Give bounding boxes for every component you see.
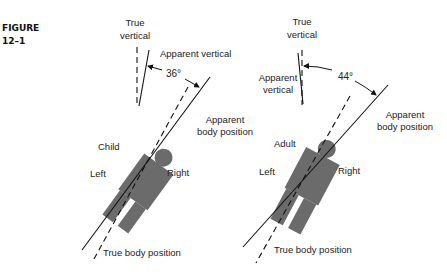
apparent-vertical-label-line1: Apparent [259,72,298,83]
panel-child: True vertical Apparent vertical 36° Appa… [82,17,253,259]
true-body-position-label: True body position [274,244,352,255]
apparent-vertical-line [139,50,149,106]
angle-arrow-left [148,66,162,70]
true-body-position-label: True body position [103,247,181,258]
apparent-body-position-label-line1: Apparent [206,114,245,125]
true-vertical-label-line1: True [292,16,311,27]
angle-label: 36° [166,68,181,79]
angle-arc-left [304,66,332,70]
panel-adult: True vertical Apparent vertical 44° Appa… [243,16,433,263]
left-label: Left [90,168,106,179]
subject-label: Adult [274,138,296,149]
angle-arc-right [355,81,376,95]
right-label: Right [167,167,190,178]
true-body-position-line [256,96,350,263]
true-vertical-label-line2: vertical [120,30,150,41]
apparent-vertical-label-line2: vertical [263,84,293,95]
left-label: Left [259,166,275,177]
angle-label: 44° [338,71,353,82]
apparent-body-position-line [82,77,210,250]
apparent-body-position-label-line2: body position [197,126,253,137]
true-vertical-label-line2: vertical [287,29,317,40]
child-figure [101,140,184,235]
angle-arrow-right [185,79,199,87]
true-vertical-label-line1: True [125,17,144,28]
apparent-vertical-label: Apparent vertical [160,48,231,59]
apparent-body-position-label-line2: body position [377,121,433,132]
apparent-body-position-label-line1: Apparent [386,109,425,120]
body-orientation-diagram: True vertical Apparent vertical 36° Appa… [0,0,447,277]
right-label: Right [338,165,361,176]
subject-label: Child [98,141,120,152]
